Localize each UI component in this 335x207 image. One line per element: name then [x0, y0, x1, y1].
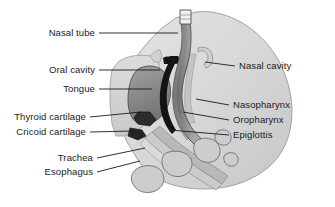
label-thyroid-cartilage: Thyroid cartilage: [14, 112, 86, 122]
label-nasal-tube: Nasal tube: [49, 28, 95, 38]
label-esophagus: Esophagus: [45, 167, 93, 177]
label-tongue: Tongue: [63, 84, 95, 94]
label-nasal-cavity: Nasal cavity: [239, 61, 291, 71]
label-trachea: Trachea: [58, 153, 93, 163]
label-cricoid-cartilage: Cricoid cartilage: [16, 127, 86, 137]
leader-line-esophagus: [97, 161, 140, 172]
label-nasopharynx: Nasopharynx: [233, 100, 290, 110]
label-epiglottis: Epiglottis: [233, 130, 273, 140]
label-oropharynx: Oropharynx: [233, 115, 284, 125]
label-oral-cavity: Oral cavity: [49, 65, 95, 75]
anatomy-figure-screenshot: Nasal tubeOral cavityTongueThyroid carti…: [0, 0, 335, 207]
